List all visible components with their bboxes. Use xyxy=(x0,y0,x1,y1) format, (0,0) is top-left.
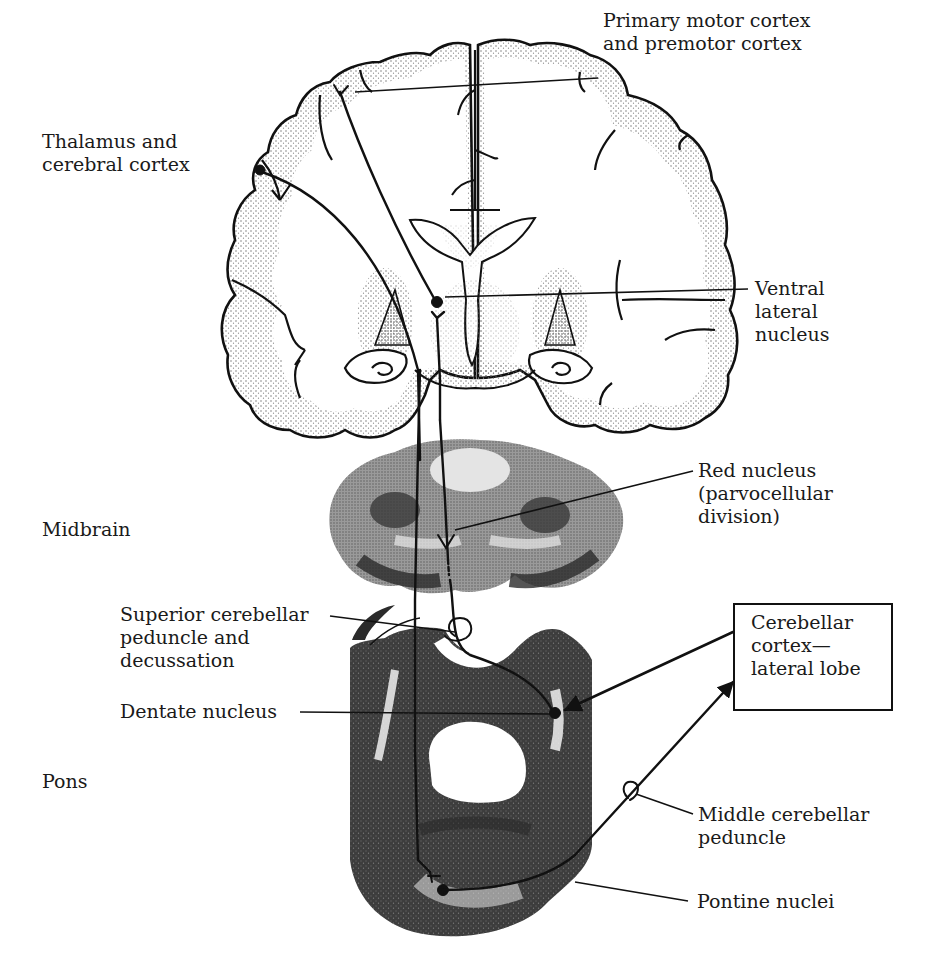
label-red-nucleus: Red nucleus (parvocellular division) xyxy=(698,459,833,528)
label-dentate-nucleus: Dentate nucleus xyxy=(120,700,277,723)
dentate-nucleus-dot xyxy=(550,708,561,719)
thalamus-cortex-terminal-dot xyxy=(255,165,265,175)
label-superior-cerebellar-peduncle: Superior cerebellar peduncle and decussa… xyxy=(120,603,309,672)
label-middle-cerebellar-peduncle: Middle cerebellar peduncle xyxy=(698,803,869,849)
leader-middle-cerebellar xyxy=(636,794,693,814)
label-thalamus-cerebral-cortex: Thalamus and cerebral cortex xyxy=(42,130,190,176)
label-primary-motor-cortex: Primary motor cortex and premotor cortex xyxy=(603,9,811,55)
cerebrum-coronal-section xyxy=(222,40,737,438)
label-pons: Pons xyxy=(42,770,87,793)
leader-superior-cerebellar xyxy=(330,616,455,632)
label-pontine-nuclei: Pontine nuclei xyxy=(697,890,834,913)
midbrain-section xyxy=(329,439,623,593)
label-midbrain: Midbrain xyxy=(42,518,131,541)
ventral-lateral-nucleus-dot xyxy=(432,297,443,308)
label-cerebellar-cortex-lateral-lobe: Cerebellar cortex— lateral lobe xyxy=(751,611,881,680)
label-ventral-lateral-nucleus: Ventral lateral nucleus xyxy=(755,277,829,346)
leader-pontine-nuclei xyxy=(575,882,688,901)
cerebellar-cortex-box: Cerebellar cortex— lateral lobe xyxy=(733,603,893,711)
